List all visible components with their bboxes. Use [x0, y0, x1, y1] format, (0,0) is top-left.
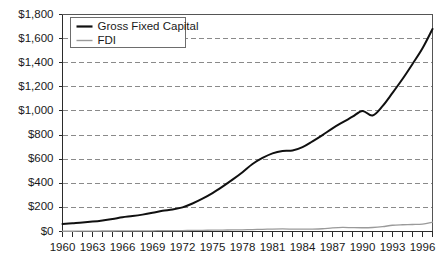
chart-legend: Gross Fixed CapitalFDI	[71, 18, 199, 48]
y-axis-tick-label: $400	[28, 176, 54, 188]
legend-label-fdi: FDI	[98, 34, 117, 46]
line-chart: $0$200$400$600$800$1,000$1,200$1,400$1,6…	[0, 0, 447, 265]
x-axis-tick-label: 1984	[290, 241, 316, 253]
y-axis-tick-label: $600	[28, 152, 54, 164]
x-axis-tick-label: 1981	[260, 241, 286, 253]
x-axis-tick-label: 1978	[230, 241, 256, 253]
x-axis-tick-label: 1987	[320, 241, 346, 253]
y-axis-tick-label: $1,600	[18, 32, 53, 44]
y-axis-tick-label: $1,200	[18, 80, 53, 92]
y-axis-tick-label: $200	[28, 200, 54, 212]
x-axis-tick-label: 1972	[170, 241, 196, 253]
x-axis-tick-label: 1990	[350, 241, 376, 253]
x-axis-tick-label: 1996	[410, 241, 436, 253]
y-axis-tick-label: $1,800	[18, 8, 53, 20]
y-axis-tick-label: $1,000	[18, 104, 53, 116]
chart-container: $0$200$400$600$800$1,000$1,200$1,400$1,6…	[0, 0, 447, 265]
x-axis-tick-label: 1960	[50, 241, 76, 253]
x-axis-tick-label: 1963	[80, 241, 106, 253]
legend-label-gross-fixed-capital: Gross Fixed Capital	[98, 20, 199, 32]
y-axis-tick-label: $1,400	[18, 56, 53, 68]
x-axis-tick-label: 1975	[200, 241, 226, 253]
x-axis-tick-label: 1969	[140, 241, 166, 253]
x-axis-tick-label: 1966	[110, 241, 136, 253]
y-axis-tick-label: $0	[41, 225, 54, 237]
chart-background	[0, 0, 447, 265]
x-axis-tick-label: 1993	[380, 241, 406, 253]
y-axis-tick-label: $800	[28, 128, 54, 140]
